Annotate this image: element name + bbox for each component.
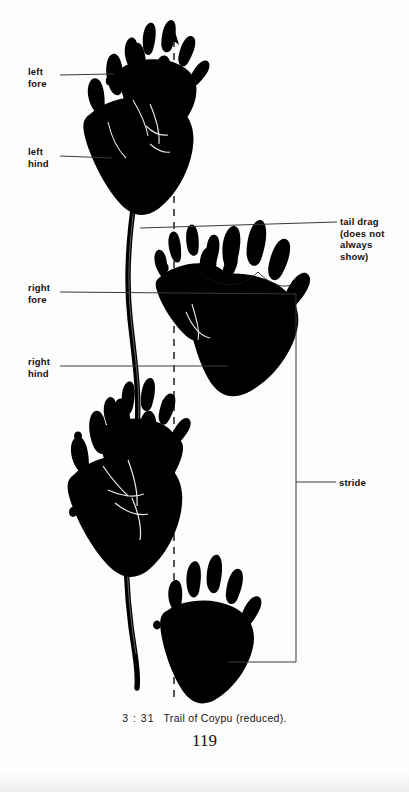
figure-number: 3 : 31 (122, 712, 154, 724)
label-tail-drag: tail drag (does not always show) (340, 216, 385, 262)
track-right-pair (146, 213, 315, 403)
coypu-trail-artwork (0, 0, 409, 706)
figure-caption: 3 : 31Trail of Coypu (reduced). (0, 712, 409, 724)
track-left-pair-bottom (56, 376, 200, 584)
page-number: 119 (0, 731, 409, 751)
track-left-pair-top (75, 17, 212, 220)
label-left-fore: left fore (28, 66, 47, 89)
label-stride: stride (339, 477, 366, 489)
figure-illustration: left fore left hind right fore right hin… (0, 0, 409, 706)
leader-tail-drag (140, 222, 337, 228)
page-edge-shadow (0, 770, 409, 792)
book-page: left fore left hind right fore right hin… (0, 0, 409, 792)
figure-caption-text: Trail of Coypu (reduced). (164, 712, 287, 724)
leader-left-fore (60, 74, 114, 75)
label-right-fore: right fore (28, 282, 50, 305)
label-left-hind: left hind (28, 146, 49, 169)
label-right-hind: right hind (28, 356, 50, 379)
